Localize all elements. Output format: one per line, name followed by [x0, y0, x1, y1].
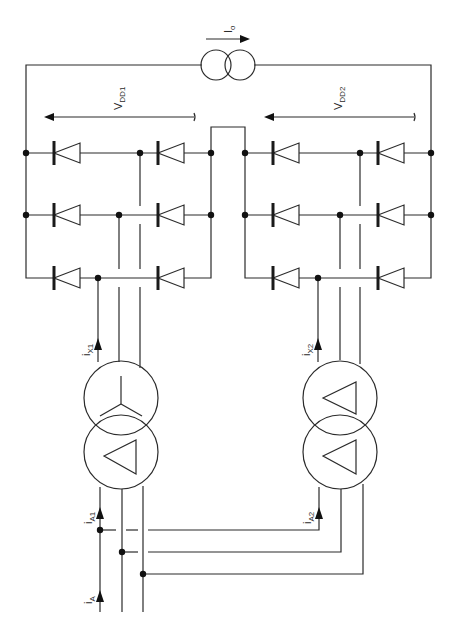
- ia2-arrow: [315, 507, 323, 519]
- ia2-label: iA2: [301, 511, 316, 524]
- circuit-diagram: Io VDD1 VDD2: [0, 0, 453, 626]
- diode-icon: [54, 266, 80, 290]
- ia-label: iA: [82, 596, 97, 604]
- wye-winding-icon: [100, 376, 142, 416]
- diode-icon: [378, 141, 404, 165]
- diode-icon: [54, 141, 80, 165]
- ix2-label: iX2: [300, 343, 315, 356]
- series-link: [211, 127, 245, 153]
- ix2-arrow: [314, 338, 322, 350]
- ia1-label: iA1: [82, 511, 97, 524]
- vdd2-label: VDD2: [332, 86, 347, 110]
- diode-bridge-2: [242, 141, 434, 364]
- delta-winding-icon: [323, 382, 356, 414]
- output-current-arrow: [206, 35, 250, 43]
- vdd1-label: VDD1: [112, 86, 127, 110]
- dc-output-loop: [26, 65, 431, 153]
- diode-icon: [273, 266, 299, 290]
- diode-icon: [378, 203, 404, 227]
- diode-icon: [158, 203, 184, 227]
- vdd2-arrow: [264, 113, 415, 121]
- delta-winding-icon: [323, 440, 356, 474]
- ix1-label: iX1: [80, 343, 95, 356]
- diode-icon: [54, 203, 80, 227]
- delta-winding-icon: [104, 440, 136, 474]
- current-source-icon: [201, 50, 255, 80]
- diode-icon: [158, 141, 184, 165]
- ia-arrow: [96, 590, 104, 602]
- transformer-2: [303, 361, 377, 489]
- primary-feeds: [97, 484, 363, 612]
- diode-icon: [158, 266, 184, 290]
- ix1-arrow: [94, 338, 102, 350]
- output-current-label: Io: [222, 25, 237, 33]
- diode-icon: [273, 203, 299, 227]
- vdd1-arrow: [44, 113, 195, 121]
- transformer-1: [84, 361, 158, 489]
- diode-icon: [273, 141, 299, 165]
- diode-bridge-1: [23, 141, 214, 368]
- diode-icon: [378, 266, 404, 290]
- ia1-arrow: [96, 507, 104, 519]
